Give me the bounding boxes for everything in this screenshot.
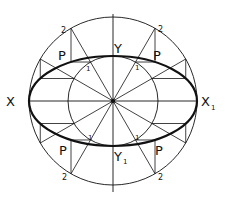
label-x1-sub: 1	[211, 104, 215, 112]
center-point	[111, 99, 115, 103]
label-x: X	[6, 94, 15, 109]
label-p-bottom-right: P	[155, 143, 163, 158]
label-y1: Y	[113, 149, 122, 164]
construction-geometry	[29, 14, 197, 192]
label-1-top-left: 1	[86, 65, 90, 73]
label-1-bottom-left: 1	[88, 134, 92, 142]
label-1-bottom-right: 1	[135, 134, 139, 142]
radial-line	[71, 28, 113, 101]
labels: X X 1 Y Y 1 P P P P 2 2 2 2 1 1 1 1	[6, 25, 215, 182]
label-1-top-right: 1	[135, 64, 139, 72]
radial-line	[113, 59, 186, 101]
radial-line	[113, 101, 186, 143]
label-p-top-left: P	[58, 48, 66, 63]
label-2-bottom-left: 2	[62, 173, 67, 182]
label-2-top-right: 2	[158, 25, 163, 34]
label-y1-sub: 1	[123, 158, 127, 166]
ellipse-construction-diagram: X X 1 Y Y 1 P P P P 2 2 2 2 1 1 1 1	[0, 0, 225, 202]
label-p-top-right: P	[153, 48, 161, 63]
label-x1: X	[201, 94, 210, 109]
radial-line	[40, 59, 113, 101]
label-2-top-left: 2	[61, 26, 66, 35]
label-y: Y	[113, 41, 122, 56]
label-2-bottom-right: 2	[158, 173, 163, 182]
label-p-bottom-left: P	[59, 143, 67, 158]
radial-line	[113, 28, 155, 101]
radial-line	[40, 101, 113, 143]
